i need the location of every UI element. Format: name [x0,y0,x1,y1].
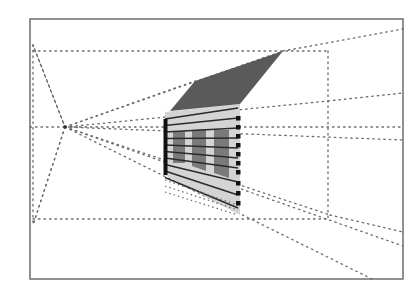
front-edge-post [164,119,168,175]
siding-line [165,138,238,139]
window [192,129,206,171]
edge-marker [236,152,241,157]
window [214,130,229,178]
edge-marker [236,181,241,186]
edge-marker [236,170,241,175]
perspective-drawing-canvas [0,0,415,292]
construction-line [33,127,65,225]
house-roof [170,51,283,111]
edge-marker [236,134,241,139]
construction-line [283,29,403,51]
construction-line [33,45,65,127]
edge-marker [236,161,241,166]
construction-line [328,93,403,101]
edge-marker [236,125,241,130]
perspective-diagram [0,0,415,292]
window [173,131,185,163]
edge-marker [236,201,241,206]
vanishing-point-marker [63,125,67,129]
edge-marker [236,191,241,196]
edge-marker [236,143,241,148]
edge-marker [236,116,241,121]
